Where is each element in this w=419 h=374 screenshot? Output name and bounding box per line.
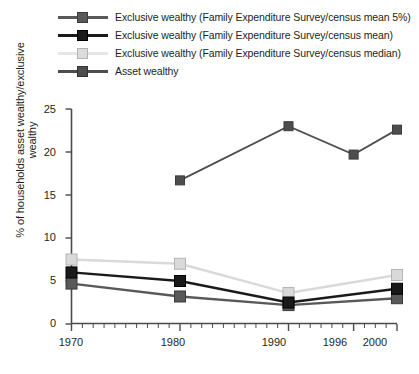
plot-area: % of households asset wealthy/exclusive …: [0, 0, 419, 374]
data-point-marker: [175, 258, 186, 269]
data-point-marker: [284, 122, 293, 131]
data-point-marker: [66, 267, 77, 278]
data-point-marker: [175, 276, 186, 287]
data-point-marker: [349, 150, 358, 159]
data-series-group: [66, 122, 403, 311]
x-axis-ticks: [72, 324, 398, 331]
series-line: [72, 272, 398, 302]
series-3: [176, 122, 402, 185]
chart-figure: Exclusive wealthy (Family Expenditure Su…: [0, 0, 419, 374]
chart-canvas: [0, 0, 419, 374]
data-point-marker: [66, 254, 77, 265]
data-point-marker: [66, 278, 77, 289]
data-point-marker: [392, 283, 403, 294]
data-point-marker: [175, 291, 186, 302]
data-point-marker: [393, 125, 402, 134]
data-point-marker: [283, 297, 294, 308]
data-point-marker: [392, 269, 403, 280]
data-point-marker: [176, 176, 185, 185]
series-line: [180, 126, 397, 180]
y-axis-ticks: [66, 109, 72, 324]
